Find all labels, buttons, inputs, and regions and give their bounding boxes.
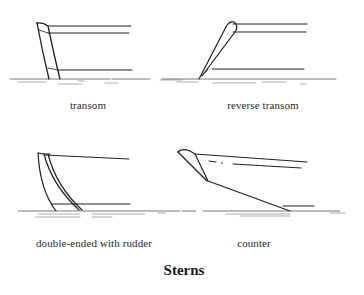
sterns-diagram: transom reverse transom double-ended wit…: [0, 0, 364, 295]
reverse-transom-drawing: [162, 22, 336, 84]
figure-title: Sterns: [164, 262, 205, 279]
label-transom: transom: [70, 99, 106, 111]
counter-drawing: [178, 150, 345, 216]
double-ended-drawing: [18, 153, 180, 217]
label-counter: counter: [237, 237, 271, 249]
transom-drawing: [10, 23, 182, 84]
label-reverse-transom: reverse transom: [227, 99, 298, 111]
sterns-illustration: [0, 0, 364, 295]
label-double-ended: double-ended with rudder: [36, 237, 152, 249]
